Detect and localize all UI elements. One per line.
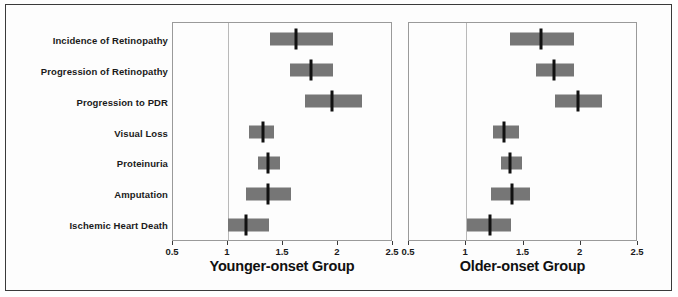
point-estimate-marker	[266, 183, 269, 204]
point-estimate-marker	[310, 59, 313, 80]
axis-tick-label: 2.5	[630, 246, 643, 257]
axis-tick	[392, 241, 393, 245]
outcome-label: Visual Loss	[8, 129, 168, 139]
axis-tick	[580, 241, 581, 245]
confidence-interval-bar	[270, 32, 333, 45]
axis-tick	[465, 241, 466, 245]
plot-area-younger	[173, 23, 391, 240]
point-estimate-marker	[266, 152, 269, 173]
outcome-label: Ischemic Heart Death	[8, 221, 168, 231]
point-estimate-marker	[488, 214, 491, 235]
axis-tick	[523, 241, 524, 245]
axis-tick-label: 1	[224, 246, 229, 257]
confidence-interval-bar	[228, 218, 269, 231]
panel-title-younger: Younger-onset Group	[172, 258, 392, 274]
outcome-label-column: Incidence of RetinopathyProgression of R…	[8, 26, 168, 241]
confidence-interval-bar	[493, 125, 519, 138]
panel-title-older: Older-onset Group	[408, 258, 637, 274]
point-estimate-marker	[511, 183, 514, 204]
axis-tick-label: 2	[577, 246, 582, 257]
outcome-label: Amputation	[8, 190, 168, 200]
point-estimate-marker	[295, 28, 298, 49]
point-estimate-marker	[553, 59, 556, 80]
confidence-interval-bar	[501, 156, 523, 169]
point-estimate-marker	[503, 121, 506, 142]
axis-tick	[227, 241, 228, 245]
axis-tick-label: 0.5	[401, 246, 414, 257]
outcome-label: Incidence of Retinopathy	[8, 36, 168, 46]
point-estimate-marker	[539, 28, 542, 49]
axis-tick-label: 1	[463, 246, 468, 257]
axis-tick	[337, 241, 338, 245]
axis-tick	[172, 241, 173, 245]
null-reference-line	[228, 23, 229, 240]
axis-tick	[282, 241, 283, 245]
x-axis-younger: Younger-onset Group 0.511.522.5	[172, 241, 392, 265]
outcome-label: Progression of Retinopathy	[8, 67, 168, 77]
axis-tick-label: 0.5	[165, 246, 178, 257]
point-estimate-marker	[262, 121, 265, 142]
panel-younger-onset	[172, 22, 392, 241]
outcome-label: Progression to PDR	[8, 98, 168, 108]
axis-tick-label: 1.5	[275, 246, 288, 257]
x-axis-older: Older-onset Group 0.511.522.5	[408, 241, 637, 265]
null-reference-line	[466, 23, 467, 240]
panel-older-onset	[408, 22, 637, 241]
axis-tick-label: 1.5	[516, 246, 529, 257]
axis-tick	[408, 241, 409, 245]
forest-plot-figure: Incidence of RetinopathyProgression of R…	[0, 0, 678, 297]
point-estimate-marker	[331, 90, 334, 111]
point-estimate-marker	[509, 152, 512, 173]
point-estimate-marker	[245, 214, 248, 235]
plot-area-older	[409, 23, 636, 240]
axis-tick-label: 2.5	[385, 246, 398, 257]
outcome-label: Proteinuria	[8, 159, 168, 169]
axis-tick	[637, 241, 638, 245]
point-estimate-marker	[577, 90, 580, 111]
axis-tick-label: 2	[334, 246, 339, 257]
